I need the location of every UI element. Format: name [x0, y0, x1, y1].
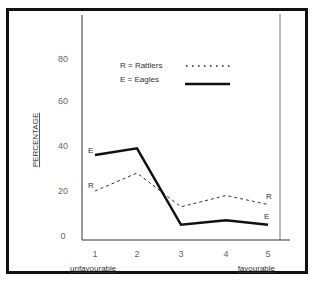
x-tick-5: 5: [265, 249, 270, 259]
x-tick-3: 3: [178, 249, 183, 259]
x-tick-4: 4: [223, 249, 228, 259]
y-tick-80: 80: [58, 54, 68, 64]
y-axis-label: PERCENTAGE: [31, 113, 40, 168]
rattlers-end-label: R: [266, 192, 272, 201]
eagles-line: [95, 148, 268, 225]
eagles-start-label: E: [88, 146, 93, 155]
y-tick-40: 40: [58, 141, 68, 151]
y-tick-labels: 0 20 40 60 80: [58, 54, 68, 241]
eagles-end-label: E: [264, 212, 269, 221]
x-tick-2: 2: [134, 249, 139, 259]
y-tick-60: 60: [58, 96, 68, 106]
x-tick-1: 1: [92, 249, 97, 259]
favourable-note: favourable: [238, 264, 276, 273]
line-chart: 0 20 40 60 80 PERCENTAGE 1 2 3 4 5 unfav…: [0, 0, 315, 284]
rattlers-start-label: R: [88, 181, 94, 190]
rattlers-line: [95, 173, 268, 207]
x-tick-labels: 1 2 3 4 5: [92, 249, 270, 259]
y-tick-20: 20: [58, 186, 68, 196]
legend-eagles-label: E = Eagles: [120, 75, 159, 84]
legend-rattlers-label: R = Rattlers: [120, 61, 162, 70]
y-tick-0: 0: [60, 231, 65, 241]
unfavourable-note: unfavourable: [70, 264, 117, 273]
